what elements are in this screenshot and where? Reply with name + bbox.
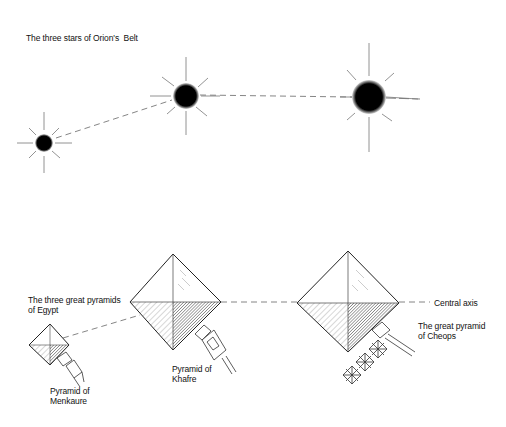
- orion-pyramids-diagram: The three stars of Orion's Belt The thre…: [0, 0, 506, 427]
- menkaure-label: Pyramid of Menkaure: [50, 386, 90, 406]
- diagram-title: The three stars of Orion's Belt: [26, 33, 138, 43]
- large-star: [340, 43, 418, 152]
- khafre-pyramid: [130, 254, 236, 374]
- central-axis-label: Central axis: [434, 298, 478, 308]
- khafre-label: Pyramid of Khafre: [172, 364, 212, 384]
- menkaure-causeway: [57, 352, 84, 387]
- pyramids-group-label: The three great pyramids of Egypt: [28, 295, 121, 315]
- small-star: [17, 112, 72, 173]
- menkaure-pyramid: [29, 324, 84, 387]
- middle-star: [150, 57, 220, 135]
- diagram-artwork: [0, 0, 506, 427]
- cheops-label: The great pyramid of Cheops: [418, 321, 485, 341]
- cheops-pyramid: [297, 251, 415, 384]
